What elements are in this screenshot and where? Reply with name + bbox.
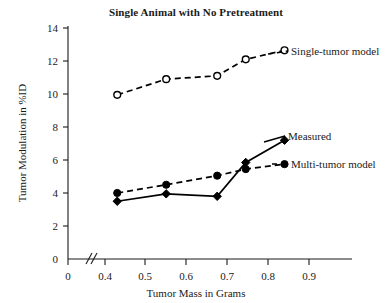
x-axis-title: Tumor Mass in Grams [147,287,246,299]
y-tick-label-2: 2 [53,220,59,232]
series-markers-single-tumor [114,47,288,98]
y-axis-title: Tumor Modulation in %ID [16,84,28,203]
x-tick-label-0-8: 0.8 [261,270,275,282]
x-tick-label-0-7: 0.7 [220,270,234,282]
data-point [114,189,121,196]
x-tick-label-0: 0 [65,270,71,282]
series-label-single-tumor: Single-tumor model [291,45,379,57]
y-tick-label-8: 8 [53,121,59,133]
series-single-tumor-model [114,47,288,98]
x-tick-label-0-9: 0.9 [302,270,316,282]
x-tick-label-0-6: 0.6 [179,270,193,282]
x-tick-label-0-5: 0.5 [138,270,152,282]
series-label-multi-tumor: Multi-tumor model [291,158,376,170]
chart-figure: Single Animal with No Pretreatment 14 12… [0,0,392,303]
series-line-multi-tumor [117,164,284,193]
y-tick-label-4: 4 [53,187,59,199]
x-axis-ticks [68,259,309,265]
data-point [242,56,249,63]
data-point [162,190,170,198]
data-point [114,91,121,98]
y-tick-label-14: 14 [47,22,59,34]
y-tick-label-12: 12 [47,55,58,67]
data-point [163,181,170,188]
series-multi-tumor-model [114,161,288,197]
y-axis-ticks [63,28,68,226]
data-point [214,172,221,179]
series-line-measured [117,140,284,201]
data-point [281,47,288,54]
series-measured [113,136,289,205]
series-line-single-tumor [117,50,284,95]
x-tick-label-0-4: 0.4 [98,270,112,282]
y-tick-label-10: 10 [47,88,59,100]
series-label-measured: Measured [288,130,332,142]
y-tick-label-0: 0 [53,253,59,265]
data-point [163,76,170,83]
data-point [113,197,121,205]
data-point [214,72,221,79]
plot-area: 14 12 10 8 6 4 2 0 Tumor Modulation in %… [0,0,392,303]
y-tick-label-6: 6 [53,154,59,166]
